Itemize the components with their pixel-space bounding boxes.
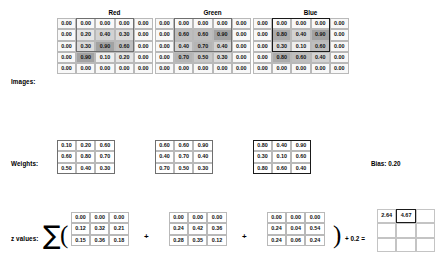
grid-cell (377, 223, 396, 237)
grid-cell: 4.67 (396, 209, 415, 223)
grid-cell (377, 238, 396, 252)
grid-cell: 2.64 (377, 209, 396, 223)
output-row: 2.644.67 (0, 0, 444, 269)
grid-cell (416, 238, 435, 252)
grid-cell (416, 209, 435, 223)
output-grid: 2.644.67 (377, 209, 435, 252)
convolution-diagram: Images: Red Green Blue 0.000.000.000.000… (0, 0, 444, 269)
grid-cell (396, 223, 415, 237)
grid-cell (396, 238, 415, 252)
grid-cell (416, 223, 435, 237)
